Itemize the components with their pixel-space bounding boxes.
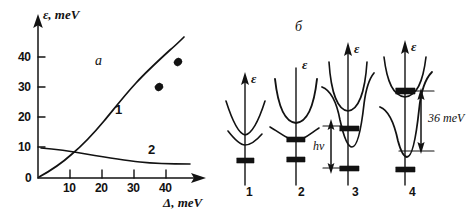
panel-b-letter: б [295, 20, 302, 34]
energy-gap-label: 36 meV [428, 112, 464, 124]
diagram-label-4: 4 [409, 186, 416, 198]
hv-transition-label: hν [313, 140, 324, 152]
well-1-energy-glyph: ε [251, 72, 256, 85]
diagram-label-2: 2 [298, 186, 305, 198]
well-4-ground-level [396, 167, 415, 172]
well-4-energy-glyph: ε [411, 40, 416, 53]
well-4-lower-parabola [380, 72, 432, 157]
figure-root: ε, meV Δ, meV 40 30 20 10 0 10 20 30 40 … [0, 0, 474, 224]
diagram-label-3: 3 [352, 186, 359, 198]
well-2-ground-level [287, 157, 305, 162]
well-2-energy-glyph: ε [302, 58, 307, 71]
well-3-ground-level [340, 166, 359, 171]
well-3-excited-level [340, 126, 359, 131]
well-1-ground-level [237, 158, 254, 163]
panel-b-graphics [0, 0, 474, 224]
diagram-label-1: 1 [246, 186, 253, 198]
well-2-excited-level [287, 137, 305, 142]
well-3-energy-glyph: ε [354, 42, 359, 55]
